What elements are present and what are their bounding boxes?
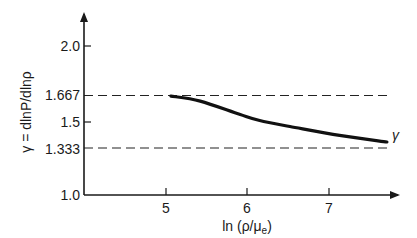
x-axis-label-suffix: )	[267, 218, 272, 234]
y-tick-label: 1.667	[45, 87, 80, 103]
y-ticks	[84, 46, 91, 122]
gamma-annotation: γ	[392, 127, 400, 143]
y-tick-label: 1.5	[61, 114, 81, 130]
x-ticks	[166, 188, 329, 195]
y-tick-labels: 2.0 1.667 1.5 1.333 1.0	[45, 38, 80, 203]
y-tick-label: 1.333	[45, 141, 80, 157]
y-axis-label: γ = dlnP/dlnρ	[18, 71, 34, 153]
x-tick-label: 6	[243, 200, 251, 216]
gamma-curve	[171, 96, 387, 142]
x-axis-label: ln (ρ/μe)	[222, 218, 272, 236]
y-tick-label: 1.0	[61, 187, 81, 203]
y-tick-label: 2.0	[61, 38, 81, 54]
x-axis-label-main: ln (ρ/μ	[222, 218, 261, 234]
x-tick-label: 5	[162, 200, 170, 216]
chart-canvas: 2.0 1.667 1.5 1.333 1.0 5 6 7 ln (ρ/μe) …	[0, 0, 417, 238]
x-tick-label: 7	[325, 200, 333, 216]
x-tick-labels: 5 6 7	[162, 200, 333, 216]
